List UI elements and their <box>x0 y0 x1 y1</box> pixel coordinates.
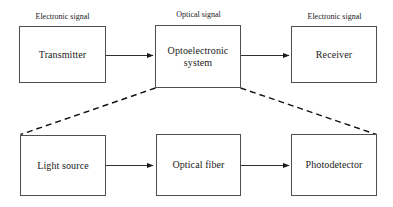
block-photodetector[interactable]: Photodetector <box>291 134 377 196</box>
block-transmitter-label: Transmitter <box>36 49 89 61</box>
dashed-expansion-line-left <box>21 88 156 135</box>
block-transmitter[interactable]: Transmitter <box>19 26 106 83</box>
block-photodetector-label: Photodetector <box>303 159 366 171</box>
optical-system-diagram: Electronic signal Optical signal Electro… <box>0 0 393 207</box>
block-light-source-label: Light source <box>34 160 91 172</box>
signal-label-electronic-left: Electronic signal <box>19 12 106 21</box>
block-optical-fiber-label: Optical fiber <box>169 159 227 171</box>
signal-label-optical: Optical signal <box>155 10 242 19</box>
block-optical-fiber[interactable]: Optical fiber <box>156 134 241 196</box>
dashed-expansion-line-right <box>241 88 377 135</box>
block-optoelectronic-system-label: Optoelectronic system <box>165 45 232 69</box>
block-optoelectronic-system-line-2: system <box>184 57 212 68</box>
block-light-source[interactable]: Light source <box>20 135 106 196</box>
block-optoelectronic-system-line-1: Optoelectronic <box>168 45 229 56</box>
block-receiver-label: Receiver <box>313 49 355 61</box>
signal-label-electronic-right: Electronic signal <box>291 12 378 21</box>
block-receiver[interactable]: Receiver <box>291 26 377 83</box>
block-optoelectronic-system[interactable]: Optoelectronic system <box>155 25 241 88</box>
